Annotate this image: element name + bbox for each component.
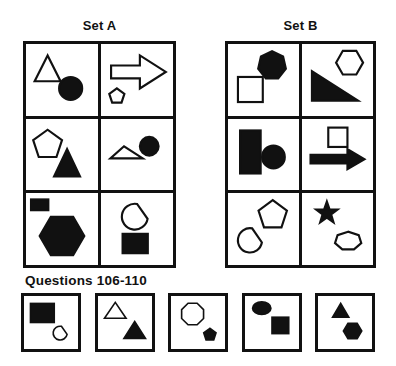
pentagon-outline-shape xyxy=(259,200,287,227)
star-solid-shape xyxy=(316,202,338,223)
set-b-cell-3 xyxy=(228,119,299,191)
octagon-outline-shape xyxy=(182,303,204,325)
arrow-right-solid-shape xyxy=(311,149,365,169)
shape-canvas xyxy=(245,296,299,349)
set-a-cell-1 xyxy=(26,44,98,116)
pentagon-outline-small-shape xyxy=(109,88,124,102)
set-b-panel: Set B xyxy=(225,18,376,268)
pentagon-solid-small-shape xyxy=(204,328,216,340)
set-a-cell-2 xyxy=(101,44,173,116)
answer-option-4[interactable] xyxy=(242,293,302,352)
set-b-cell-2 xyxy=(302,44,373,116)
set-a-cell-4 xyxy=(101,119,173,191)
set-b-grid xyxy=(225,41,376,268)
set-b-cell-1 xyxy=(228,44,299,116)
square-solid-shape xyxy=(272,317,289,333)
triangle-solid-shape xyxy=(333,303,349,317)
blob-outline-shape xyxy=(122,204,148,230)
triangle-solid-shape xyxy=(123,321,145,338)
square-outline-shape xyxy=(238,77,263,102)
shape-canvas xyxy=(228,193,299,265)
triangle-outline-shape xyxy=(35,55,61,81)
rect-solid-small-shape xyxy=(31,200,48,211)
heptagon-solid-shape xyxy=(258,51,286,78)
pentagon-outline-shape xyxy=(33,129,62,156)
test-figure-page: Set A Set B Questions 106-110 xyxy=(0,0,396,366)
answer-option-1[interactable] xyxy=(21,293,81,352)
rect-solid-tall-shape xyxy=(240,130,261,173)
circle-solid-shape xyxy=(262,145,285,168)
set-a-panel: Set A xyxy=(23,18,176,268)
shape-canvas xyxy=(228,119,299,191)
shape-canvas xyxy=(302,44,373,116)
teardrop-outline-shape xyxy=(53,326,67,340)
set-a-grid xyxy=(23,41,176,268)
rect-solid-shape xyxy=(123,234,148,253)
hexagon-solid-shape xyxy=(40,217,85,255)
shape-canvas xyxy=(26,119,98,191)
set-a-cell-6 xyxy=(101,193,173,265)
hexagon-solid-shape xyxy=(343,323,361,339)
shape-canvas xyxy=(26,44,98,116)
shape-canvas xyxy=(26,193,98,265)
set-b-cell-5 xyxy=(228,193,299,265)
set-b-label: Set B xyxy=(225,18,376,34)
answer-option-5[interactable] xyxy=(315,293,375,352)
shape-canvas xyxy=(101,119,173,191)
ellipse-solid-shape xyxy=(252,302,270,315)
circle-solid-shape xyxy=(59,77,82,100)
arrow-right-outline-shape xyxy=(111,55,166,88)
set-b-cell-6 xyxy=(302,193,373,265)
shape-canvas xyxy=(302,119,373,191)
set-a-cell-5 xyxy=(26,193,98,265)
shape-canvas xyxy=(171,296,225,349)
shape-canvas xyxy=(302,193,373,265)
set-a-label: Set A xyxy=(23,18,176,34)
shape-canvas xyxy=(318,296,372,349)
hexagon-outline-shape xyxy=(336,51,363,75)
questions-heading: Questions 106-110 xyxy=(25,273,147,288)
answer-option-3[interactable] xyxy=(168,293,228,352)
shape-canvas xyxy=(101,193,173,265)
blob-outline-shape xyxy=(238,228,262,252)
triangle-outline-shape xyxy=(104,302,126,318)
answer-option-2[interactable] xyxy=(95,293,155,352)
answer-options-row xyxy=(21,293,375,352)
flat-triangle-outline-shape xyxy=(110,146,142,158)
shape-canvas xyxy=(24,296,78,349)
heptagon-outline-shape xyxy=(335,232,361,250)
square-outline-shape xyxy=(328,127,347,146)
rect-solid-shape xyxy=(30,303,54,322)
set-b-cell-4 xyxy=(302,119,373,191)
shape-canvas xyxy=(228,44,299,116)
set-a-cell-3 xyxy=(26,119,98,191)
circle-solid-shape xyxy=(140,137,159,156)
right-triangle-solid-shape xyxy=(312,71,358,100)
shape-canvas xyxy=(101,44,173,116)
shape-canvas xyxy=(98,296,152,349)
